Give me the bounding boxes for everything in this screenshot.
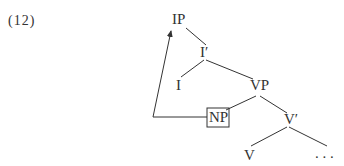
node-np: NP bbox=[209, 110, 228, 125]
edge-ibar-i bbox=[181, 60, 204, 77]
edge-ibar-vp bbox=[206, 60, 253, 79]
movement-arrow bbox=[153, 31, 207, 117]
node-i: I bbox=[176, 78, 181, 93]
node-v: V bbox=[244, 148, 255, 163]
node-vp: VP bbox=[250, 78, 269, 93]
edge-vbar-v bbox=[251, 127, 287, 146]
edge-vp-vbar bbox=[260, 96, 287, 113]
node-ibar: I′ bbox=[200, 45, 208, 60]
edge-vp-np bbox=[226, 96, 256, 110]
node-ip: IP bbox=[172, 12, 185, 27]
edge-ip-ibar bbox=[186, 28, 206, 45]
node-ellipsis: . . . bbox=[315, 146, 334, 161]
node-vbar: V′ bbox=[284, 112, 298, 127]
edge-vbar-ellipsis bbox=[289, 127, 327, 146]
